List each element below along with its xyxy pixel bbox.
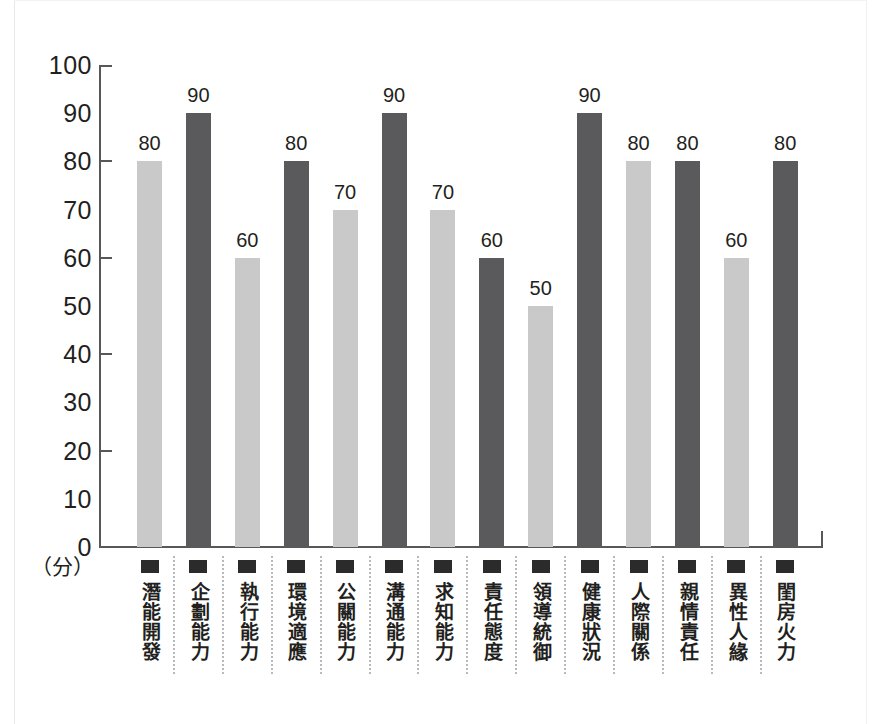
- category-label-text: 異性人緣: [726, 582, 747, 662]
- bar-value-label: 60: [217, 230, 277, 250]
- category-label-column[interactable]: 異性人緣: [724, 560, 749, 662]
- category-separator: [662, 556, 664, 674]
- y-tick-mark-40: [99, 353, 112, 355]
- y-tick-label-50: 50: [6, 294, 92, 319]
- square-marker-icon: [483, 560, 501, 573]
- square-marker-icon: [630, 560, 648, 573]
- bar-value-label: 60: [462, 230, 522, 250]
- y-axis-line: [99, 65, 101, 548]
- square-marker-icon: [336, 560, 354, 573]
- category-label-column[interactable]: 閨房火力: [773, 560, 798, 662]
- bar-value-label: 80: [755, 133, 815, 153]
- bar[interactable]: [528, 306, 553, 547]
- category-label-column[interactable]: 親情責任: [675, 560, 700, 662]
- bar[interactable]: [382, 113, 407, 547]
- category-label-text: 環境適應: [285, 582, 306, 662]
- category-label-text: 責任態度: [481, 582, 502, 662]
- square-marker-icon: [385, 560, 403, 573]
- bar-value-label: 50: [511, 278, 571, 298]
- x-axis-end-tick: [821, 531, 823, 548]
- category-separator: [173, 556, 175, 674]
- y-axis-tick-labels: 1009080706050403020100: [0, 0, 92, 724]
- bar[interactable]: [626, 161, 651, 547]
- category-separator: [613, 556, 615, 674]
- square-marker-icon: [287, 560, 305, 573]
- bar[interactable]: [773, 161, 798, 547]
- bar-value-label: 80: [120, 133, 180, 153]
- y-tick-label-60: 60: [6, 246, 92, 271]
- bar-value-label: 70: [413, 182, 473, 202]
- category-label-column[interactable]: 健康狀況: [577, 560, 602, 662]
- category-label-column[interactable]: 環境適應: [284, 560, 309, 662]
- bar[interactable]: [333, 210, 358, 547]
- category-label-text: 執行能力: [237, 582, 258, 662]
- y-tick-label-10: 10: [6, 487, 92, 512]
- category-label-text: 閨房火力: [774, 582, 795, 662]
- square-marker-icon: [727, 560, 745, 573]
- category-label-text: 潛能開發: [139, 582, 160, 662]
- bar-value-label: 60: [706, 230, 766, 250]
- square-marker-icon: [141, 560, 159, 573]
- y-tick-label-90: 90: [6, 101, 92, 126]
- y-tick-label-30: 30: [6, 390, 92, 415]
- category-label-text: 求知能力: [432, 582, 453, 662]
- category-label-text: 企劃能力: [188, 582, 209, 662]
- category-separator: [466, 556, 468, 674]
- category-label-column[interactable]: 執行能力: [235, 560, 260, 662]
- bar-value-label: 90: [560, 85, 620, 105]
- category-separator: [369, 556, 371, 674]
- bar-value-label: 80: [657, 133, 717, 153]
- square-marker-icon: [189, 560, 207, 573]
- y-axis-top-tick: [99, 65, 112, 67]
- category-label-text: 領導統御: [530, 582, 551, 662]
- category-label-text: 溝通能力: [383, 582, 404, 662]
- y-axis-unit-label: （分）: [0, 556, 94, 577]
- square-marker-icon: [678, 560, 696, 573]
- y-tick-label-80: 80: [6, 149, 92, 174]
- category-separator: [564, 556, 566, 674]
- category-label-column[interactable]: 企劃能力: [186, 560, 211, 662]
- bar[interactable]: [235, 258, 260, 547]
- category-label-text: 人際關係: [628, 582, 649, 662]
- bar-value-label: 90: [364, 85, 424, 105]
- square-marker-icon: [238, 560, 256, 573]
- bar[interactable]: [186, 113, 211, 547]
- bar-value-label: 80: [266, 133, 326, 153]
- bar[interactable]: [577, 113, 602, 547]
- category-label-column[interactable]: 潛能開發: [137, 560, 162, 662]
- category-label-text: 健康狀況: [579, 582, 600, 662]
- bar-value-label: 70: [315, 182, 375, 202]
- square-marker-icon: [776, 560, 794, 573]
- category-separator: [417, 556, 419, 674]
- category-label-column[interactable]: 領導統御: [528, 560, 553, 662]
- category-label-text: 親情責任: [677, 582, 698, 662]
- bar[interactable]: [675, 161, 700, 547]
- bar[interactable]: [724, 258, 749, 547]
- y-tick-mark-20: [99, 450, 112, 452]
- y-tick-mark-60: [99, 257, 112, 259]
- category-label-column[interactable]: 人際關係: [626, 560, 651, 662]
- bar-chart: 1009080706050403020100 （分） 8090608070907…: [0, 0, 874, 724]
- category-label-text: 公關能力: [334, 582, 355, 662]
- category-label-column[interactable]: 求知能力: [430, 560, 455, 662]
- category-separator: [271, 556, 273, 674]
- page-canvas: 1009080706050403020100 （分） 8090608070907…: [0, 0, 874, 724]
- y-tick-label-100: 100: [6, 53, 92, 78]
- bar[interactable]: [137, 161, 162, 547]
- y-tick-label-20: 20: [6, 439, 92, 464]
- category-label-column[interactable]: 責任態度: [479, 560, 504, 662]
- square-marker-icon: [581, 560, 599, 573]
- bar[interactable]: [479, 258, 504, 547]
- category-label-column[interactable]: 公關能力: [333, 560, 358, 662]
- y-tick-mark-80: [99, 160, 112, 162]
- y-tick-label-70: 70: [6, 198, 92, 223]
- category-separator: [222, 556, 224, 674]
- category-label-column[interactable]: 溝通能力: [382, 560, 407, 662]
- y-tick-label-40: 40: [6, 342, 92, 367]
- square-marker-icon: [532, 560, 550, 573]
- bar[interactable]: [284, 161, 309, 547]
- square-marker-icon: [434, 560, 452, 573]
- category-separator: [760, 556, 762, 674]
- category-separator: [515, 556, 517, 674]
- bar[interactable]: [430, 210, 455, 547]
